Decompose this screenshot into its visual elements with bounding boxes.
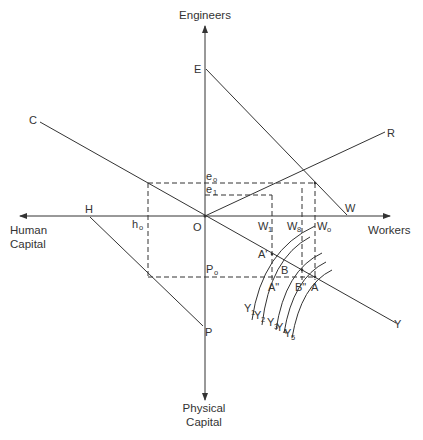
svg-text:1: 1: [213, 188, 217, 197]
svg-text:h: h: [132, 218, 138, 230]
svg-text:5: 5: [291, 333, 295, 342]
point-w-label: W: [345, 202, 356, 214]
svg-text:o: o: [214, 268, 218, 277]
point-r-label: R: [387, 127, 395, 139]
point-b-double-label: B": [295, 281, 306, 293]
physical-capital-label-line1: Physical: [183, 402, 226, 414]
point-h-label: H: [85, 203, 93, 215]
marker-e0: e o: [206, 170, 217, 184]
svg-text:o: o: [139, 223, 143, 232]
svg-text:8: 8: [297, 225, 301, 234]
physical-capital-label-line2: Capital: [186, 416, 222, 428]
svg-text:o: o: [327, 225, 331, 234]
svg-text:o: o: [213, 175, 217, 184]
human-physical-frontier: [90, 217, 203, 326]
marker-w8: W 8: [287, 220, 301, 234]
svg-text:P: P: [206, 263, 213, 275]
marker-e1: e 1: [206, 183, 217, 197]
dot-top-right: [314, 182, 317, 185]
or-ray: [205, 132, 385, 216]
point-c-label: C: [29, 114, 37, 126]
point-a-prime-label: A': [258, 248, 267, 260]
point-a-label: A: [311, 281, 319, 293]
point-e-label: E: [194, 63, 201, 75]
svg-text:1: 1: [268, 225, 272, 234]
point-b-label: B: [281, 264, 288, 276]
svg-text:e: e: [206, 183, 212, 195]
engineers-axis-label: Engineers: [179, 9, 231, 21]
engineer-worker-frontier: [206, 69, 347, 215]
dot-a: [314, 276, 317, 279]
human-capital-label-line1: Human: [10, 224, 47, 236]
factor-allocation-diagram: Engineers Workers Human Capital Physical…: [0, 0, 423, 440]
workers-axis-label: Workers: [368, 224, 411, 236]
dot-b: [301, 269, 304, 272]
marker-w1: W 1: [258, 220, 272, 234]
dot-a-prime: [271, 253, 274, 256]
isoquant-label-y2: Y 2: [254, 309, 265, 324]
svg-text:e: e: [206, 170, 212, 182]
point-a-double-label: A": [268, 281, 279, 293]
svg-text:2: 2: [261, 315, 265, 324]
marker-p0: P o: [206, 263, 218, 277]
dot-origin: [204, 215, 207, 218]
human-capital-label-line2: Capital: [10, 238, 46, 250]
marker-w0: W o: [317, 220, 331, 234]
marker-h0: h o: [132, 218, 143, 232]
point-y-label: Y: [394, 318, 402, 330]
point-p-label: P: [205, 326, 212, 338]
origin-label: O: [193, 221, 202, 233]
